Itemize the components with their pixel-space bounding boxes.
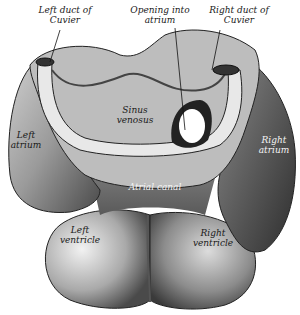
left-duct-opening [36,58,54,66]
label-left-ventricle: Left ventricle [55,225,105,245]
right-duct-opening [213,65,239,75]
label-left-atrium: Left atrium [6,130,46,150]
label-right-ventricle: Right ventricle [188,228,238,248]
label-right-atrium: Right atrium [250,135,298,155]
label-sinus-venosus: Sinus venosus [110,105,160,125]
label-opening-into-atrium: Opening into atrium [125,5,195,25]
label-atrial-canal: Atrial canal [115,182,195,192]
label-right-duct-of-cuvier: Right duct of Cuvier [203,5,275,25]
heart-illustration [0,0,300,315]
label-left-duct-of-cuvier: Left duct of Cuvier [32,5,98,25]
